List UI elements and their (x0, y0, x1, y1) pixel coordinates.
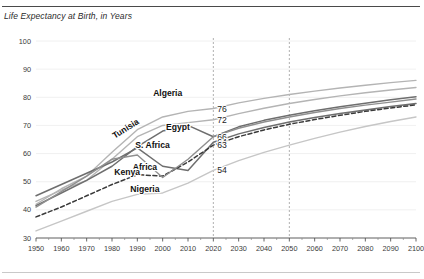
svg-text:Kenya: Kenya (114, 167, 140, 177)
x-axis-tick-label: 2030 (231, 244, 247, 253)
x-axis-tick-label: 1970 (79, 244, 95, 253)
svg-text:Egypt: Egypt (166, 122, 190, 132)
value-label-algeria: 72 (217, 115, 227, 125)
svg-text:S. Africa: S. Africa (135, 140, 170, 150)
x-axis-tick-label: 1980 (104, 244, 120, 253)
x-axis-tick-label: 1990 (129, 244, 145, 253)
series-label-egypt: EgyptEgypt (166, 122, 190, 132)
series-label-nigeria: NigeriaNigeria (130, 184, 159, 194)
x-axis-tick-label: 2040 (256, 244, 272, 253)
svg-text:Algeria: Algeria (153, 88, 182, 98)
y-axis-tick-label: 50 (23, 177, 31, 186)
x-axis-tick-label: 1950 (28, 244, 44, 253)
value-label-africa: 63 (217, 140, 227, 150)
svg-text:Nigeria: Nigeria (130, 184, 159, 194)
value-label-nigeria: 54 (217, 165, 227, 175)
x-axis-tick-label: 2080 (357, 244, 373, 253)
series-label-kenya: KenyaKenya (114, 167, 140, 177)
x-axis-tick-label: 1960 (53, 244, 69, 253)
value-label-tunisia: 76 (217, 104, 227, 114)
y-axis-tick-label: 80 (23, 93, 31, 102)
y-axis-tick-label: 60 (23, 149, 31, 158)
series-label-s-africa: S. AfricaS. Africa (135, 140, 170, 150)
y-axis-tick-label: 70 (23, 121, 31, 130)
x-axis-tick-label: 2060 (307, 244, 323, 253)
series-label-algeria: AlgeriaAlgeria (153, 88, 182, 98)
y-axis-tick-label: 90 (23, 65, 31, 74)
x-axis-tick-label: 2100 (408, 244, 424, 253)
x-axis-tick-label: 2020 (205, 244, 221, 253)
x-axis-tick-label: 2010 (180, 244, 196, 253)
y-axis-tick-label: 40 (23, 205, 31, 214)
y-axis-tick-label: 100 (19, 37, 31, 46)
x-axis-tick-label: 2090 (383, 244, 399, 253)
y-axis-tick-label: 30 (23, 234, 31, 243)
x-axis-tick-label: 2000 (155, 244, 171, 253)
x-axis-tick-label: 2050 (281, 244, 297, 253)
line-chart: 3040506070809010019501960197019801990200… (0, 0, 424, 279)
bottom-divider (2, 272, 420, 273)
x-axis-tick-label: 2070 (332, 244, 348, 253)
